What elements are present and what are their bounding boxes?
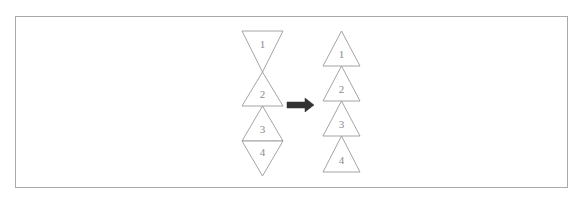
- figure-diagram: 12341234: [0, 0, 585, 207]
- figure-container: 12341234: [0, 0, 585, 207]
